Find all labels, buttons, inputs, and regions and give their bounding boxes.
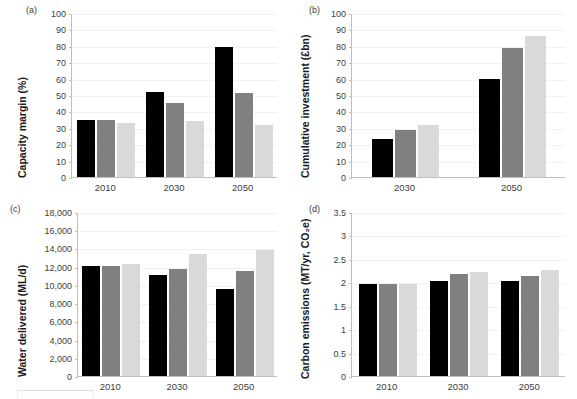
- y-tick-mark: [349, 307, 352, 308]
- y-tick-label: 2,000: [49, 354, 72, 363]
- y-tick-mark: [349, 47, 352, 48]
- bar-2010-series-2: [102, 266, 120, 376]
- bar-2050-series-1: [479, 79, 500, 177]
- y-tick-label: 4,000: [49, 336, 72, 345]
- y-tick-mark: [349, 283, 352, 284]
- bar-2030-series-1: [146, 92, 164, 177]
- x-tick-label: 2050: [233, 381, 254, 392]
- panel-c-y-axis-label: Water delivered (ML/d): [16, 265, 28, 377]
- bar-2030-series-3: [470, 272, 488, 376]
- gridline: [352, 30, 565, 31]
- y-tick-mark: [75, 377, 78, 378]
- y-tick-mark: [349, 14, 352, 15]
- y-tick-label: 8,000: [49, 300, 72, 309]
- bar-2010-series-3: [117, 123, 135, 177]
- y-tick-mark: [349, 354, 352, 355]
- bar-2030-series-1: [372, 139, 393, 177]
- gridline: [72, 47, 277, 48]
- y-tick-label: 100: [51, 10, 66, 19]
- y-tick-label: 20: [336, 141, 346, 150]
- y-tick-label: 10: [336, 157, 346, 166]
- y-tick-label: 12,000: [44, 263, 72, 272]
- y-tick-mark: [349, 96, 352, 97]
- y-tick-mark: [349, 80, 352, 81]
- y-tick-label: 30: [56, 124, 66, 133]
- bar-2050-series-1: [216, 289, 234, 376]
- panel-c-tag: (c): [10, 204, 21, 214]
- bar-2050-series-2: [236, 271, 254, 376]
- x-tick-label: 2030: [447, 381, 468, 392]
- gridline: [72, 63, 277, 64]
- y-tick-mark: [349, 162, 352, 163]
- bar-2010-series-3: [122, 264, 140, 376]
- bar-2050-series-2: [235, 93, 253, 177]
- y-tick-mark: [75, 304, 78, 305]
- y-tick-label: 14,000: [44, 245, 72, 254]
- y-tick-label: 0: [341, 174, 346, 183]
- x-tick-label: 2030: [394, 182, 415, 193]
- panel-a-y-axis-label: Capacity margin (%): [16, 77, 28, 178]
- y-tick-label: 90: [336, 26, 346, 35]
- gridline: [352, 236, 565, 237]
- panel-d-tag: (d): [309, 204, 320, 214]
- bar-2010-series-1: [359, 284, 377, 376]
- y-tick-mark: [69, 178, 72, 179]
- y-tick-label: 10: [56, 157, 66, 166]
- y-tick-mark: [75, 213, 78, 214]
- y-tick-mark: [349, 178, 352, 179]
- bar-2030-series-1: [430, 281, 448, 376]
- y-tick-mark: [69, 14, 72, 15]
- panel-b-y-axis-label: Cumulative investment (£bn): [299, 34, 311, 178]
- bar-2030-series-3: [189, 254, 207, 376]
- gridline: [78, 249, 277, 250]
- y-tick-mark: [349, 30, 352, 31]
- y-tick-label: 0.5: [333, 349, 346, 358]
- gridline: [72, 80, 277, 81]
- y-tick-mark: [349, 63, 352, 64]
- y-tick-label: 0: [341, 373, 346, 382]
- panel-b-cumulative-investment: (b) Cumulative investment (£bn) 01020304…: [289, 0, 577, 199]
- y-tick-label: 50: [336, 92, 346, 101]
- y-tick-mark: [69, 162, 72, 163]
- bar-2050-series-3: [256, 250, 274, 376]
- y-tick-mark: [349, 129, 352, 130]
- y-tick-mark: [349, 236, 352, 237]
- bar-2050-series-3: [255, 125, 273, 177]
- panel-b-plot-area: [351, 14, 565, 178]
- y-tick-label: 60: [56, 75, 66, 84]
- y-tick-label: 3: [341, 232, 346, 241]
- y-tick-label: 30: [336, 124, 346, 133]
- x-tick-label: 2050: [501, 182, 522, 193]
- y-tick-label: 80: [56, 42, 66, 51]
- y-tick-label: 6,000: [49, 318, 72, 327]
- x-tick-label: 2050: [519, 381, 540, 392]
- bar-2050-series-3: [541, 270, 559, 376]
- panel-a-tag: (a): [26, 5, 37, 15]
- y-tick-mark: [349, 213, 352, 214]
- gridline: [78, 213, 277, 214]
- bar-2030-series-3: [186, 121, 204, 177]
- panel-b-tag: (b): [309, 5, 320, 15]
- multi-panel-bar-figure: (a) Capacity margin (%) 0102030405060708…: [0, 0, 577, 399]
- bar-2030-series-2: [450, 274, 468, 376]
- panel-d-carbon-emissions: (d) Carbon emissions (MT/yr, CO₂e) 00.51…: [289, 199, 577, 398]
- y-tick-mark: [69, 145, 72, 146]
- bar-2050-series-2: [521, 276, 539, 376]
- panel-d-plot-area: [351, 213, 565, 377]
- bar-2050-series-1: [215, 47, 233, 177]
- y-tick-mark: [349, 112, 352, 113]
- bar-2030-series-1: [149, 275, 167, 376]
- y-tick-label: 70: [56, 59, 66, 68]
- bar-2050-series-1: [501, 281, 519, 376]
- y-tick-label: 1: [341, 326, 346, 335]
- panel-c-plot-area: [77, 213, 277, 377]
- bar-2030-series-2: [395, 130, 416, 177]
- bar-2010-series-3: [399, 284, 417, 376]
- y-tick-label: 40: [336, 108, 346, 117]
- bar-2010-series-2: [97, 120, 115, 177]
- y-tick-label: 100: [331, 10, 346, 19]
- bar-2010-series-1: [82, 266, 100, 376]
- x-tick-label: 2050: [232, 182, 253, 193]
- y-tick-mark: [69, 63, 72, 64]
- y-tick-label: 1.5: [333, 302, 346, 311]
